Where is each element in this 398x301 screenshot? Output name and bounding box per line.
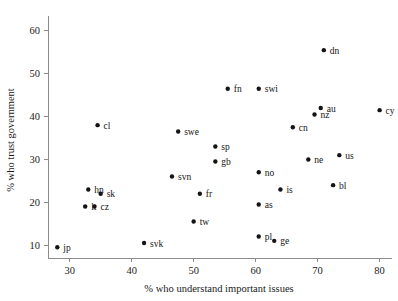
- y-tick-label: 40: [30, 111, 41, 122]
- data-point-marker: [191, 219, 195, 223]
- data-point-label: swe: [184, 127, 199, 137]
- data-point-label: sp: [221, 142, 230, 152]
- data-point-label: gb: [221, 157, 231, 167]
- x-tick-label: 50: [188, 265, 199, 276]
- data-point-label: ne: [314, 155, 323, 165]
- data-point-marker: [331, 183, 335, 187]
- data-point-marker: [306, 157, 310, 161]
- y-tick-label: 10: [30, 240, 41, 251]
- data-point-marker: [278, 187, 282, 191]
- data-point-label: cz: [100, 202, 108, 212]
- x-tick-label: 70: [312, 265, 323, 276]
- y-tick-group: 102030405060: [30, 25, 49, 250]
- data-point-label: swi: [265, 84, 279, 94]
- data-point-marker: [257, 170, 261, 174]
- data-point-label: is: [286, 185, 293, 195]
- data-point-label: jp: [62, 243, 71, 253]
- y-tick-label: 50: [30, 68, 41, 79]
- data-point-marker: [226, 87, 230, 91]
- data-point-label: cn: [299, 123, 308, 133]
- data-point-label: fn: [234, 84, 242, 94]
- data-point-marker: [272, 239, 276, 243]
- data-point-marker: [257, 234, 261, 238]
- data-point-marker: [257, 87, 261, 91]
- data-point-marker: [176, 129, 180, 133]
- data-point-marker: [213, 159, 217, 163]
- data-point-marker: [92, 204, 96, 208]
- x-tick-label: 80: [374, 265, 385, 276]
- x-tick-group: 304050607080: [64, 258, 384, 276]
- scatter-chart: 102030405060 304050607080 jpltczhnskclsv…: [0, 0, 398, 301]
- data-point-label: au: [327, 104, 336, 114]
- data-point-label: svn: [178, 172, 191, 182]
- data-point-marker: [291, 125, 295, 129]
- data-point-marker: [142, 241, 146, 245]
- data-point-label: pl: [265, 232, 273, 242]
- data-point-marker: [322, 48, 326, 52]
- data-point-marker: [95, 123, 99, 127]
- data-point-label: bl: [339, 181, 347, 191]
- data-point-marker: [312, 112, 316, 116]
- data-point-label: dn: [330, 46, 340, 56]
- data-point-label: ge: [280, 236, 289, 246]
- y-axis: 102030405060: [30, 16, 49, 258]
- x-tick-label: 40: [126, 265, 137, 276]
- data-point-label: us: [345, 151, 354, 161]
- data-point-label: as: [265, 200, 273, 210]
- data-point-marker: [213, 144, 217, 148]
- x-axis: 304050607080: [48, 258, 392, 276]
- y-tick-label: 60: [30, 25, 41, 36]
- data-point-label: cy: [386, 106, 395, 116]
- x-axis-title: % who understand important issues: [144, 283, 293, 294]
- data-point-marker: [377, 108, 381, 112]
- y-axis-title: % who trust government: [5, 88, 16, 192]
- data-point-label: cl: [104, 121, 111, 131]
- data-point-marker: [337, 153, 341, 157]
- data-point-marker: [170, 174, 174, 178]
- data-point-marker: [198, 192, 202, 196]
- data-point-marker: [257, 202, 261, 206]
- data-point-label: no: [265, 168, 275, 178]
- data-point-label: fr: [206, 189, 213, 199]
- data-point-group: jpltczhnskclsvksvnswetwfrspgbfnswinoaspl…: [55, 46, 395, 253]
- data-point-marker: [98, 192, 102, 196]
- chart-canvas: 102030405060 304050607080 jpltczhnskclsv…: [0, 0, 398, 301]
- data-point-marker: [83, 204, 87, 208]
- data-point-label: svk: [150, 239, 163, 249]
- x-tick-label: 60: [250, 265, 261, 276]
- data-point-marker: [86, 187, 90, 191]
- data-point-marker: [55, 245, 59, 249]
- data-point-label: sk: [107, 189, 116, 199]
- x-tick-label: 30: [64, 265, 75, 276]
- data-point-marker: [319, 106, 323, 110]
- y-tick-label: 30: [30, 154, 41, 165]
- data-point-label: tw: [200, 217, 210, 227]
- y-tick-label: 20: [30, 197, 41, 208]
